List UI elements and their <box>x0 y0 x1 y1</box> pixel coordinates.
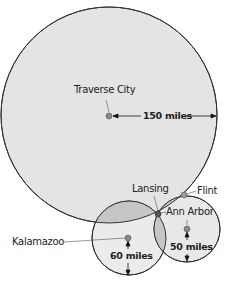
kalamazoo-dot <box>125 235 131 241</box>
lansing-label: Lansing <box>132 183 169 194</box>
ann-arbor-dot <box>184 226 190 232</box>
ann-arbor-label: Ann Arbor <box>166 206 214 217</box>
flint-dot <box>181 192 187 198</box>
traverse-city-dot <box>106 113 112 119</box>
ann-arbor-distance: 50 miles <box>170 241 213 252</box>
kalamazoo-distance: 60 miles <box>110 250 153 261</box>
flint-label: Flint <box>197 185 217 196</box>
kalamazoo-label: Kalamazoo <box>12 236 64 247</box>
lansing-dot <box>155 211 161 217</box>
traverse-city-distance: 150 miles <box>143 110 192 121</box>
circle-diagram: Traverse City 150 miles Lansing Flint An… <box>0 0 226 282</box>
traverse-city-label: Traverse City <box>74 84 135 95</box>
